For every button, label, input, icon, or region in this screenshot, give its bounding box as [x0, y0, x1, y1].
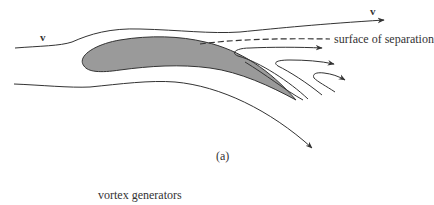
lower-streamline [14, 81, 312, 148]
velocity-label-downstream: v [370, 6, 376, 17]
velocity-label-upstream: v [40, 32, 46, 43]
vortex-generators-label: vortex generators [98, 189, 182, 201]
panel-label: (a) [216, 150, 229, 162]
separation-surface-line [200, 39, 330, 44]
vortex-streamline-3 [313, 73, 345, 92]
separation-surface-label: surface of separation [334, 33, 434, 45]
wake-streamline [245, 62, 303, 100]
airfoil-shape [82, 37, 296, 100]
